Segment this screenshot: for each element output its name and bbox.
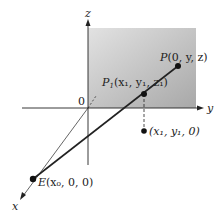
label-projection: (x₁, y₁, 0): [149, 125, 200, 138]
point-P1: [141, 91, 147, 97]
label-E: E(x₀, 0, 0): [37, 176, 93, 189]
point-projection: [141, 128, 147, 134]
z-axis-label: z: [84, 7, 91, 20]
z-axis-arrow-icon: [86, 19, 91, 26]
origin-label: 0: [78, 95, 85, 108]
x-axis-label: x: [12, 200, 19, 213]
point-E: [30, 176, 36, 182]
label-P: P(0, y, z): [159, 51, 208, 64]
y-axis-arrow-icon: [197, 106, 204, 111]
y-axis-label: y: [206, 102, 214, 115]
perspective-diagram: z y x 0 P(0, y, z) P1(x₁, y₁, z₁) (x₁, y…: [0, 0, 221, 216]
